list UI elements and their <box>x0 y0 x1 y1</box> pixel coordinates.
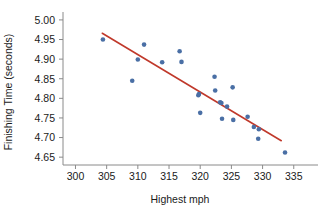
y-tick-label: 4.80 <box>35 92 56 104</box>
x-axis-title: Highest mph <box>151 193 210 205</box>
y-tick-group: 4.654.704.754.804.854.904.955.00 <box>35 14 63 163</box>
x-tick-label: 335 <box>285 170 303 182</box>
data-point <box>179 60 184 65</box>
data-point <box>283 150 288 155</box>
data-point <box>220 116 225 121</box>
y-tick-label: 5.00 <box>35 14 56 26</box>
data-point <box>212 74 217 79</box>
regression-line-group <box>102 33 281 140</box>
data-point <box>245 114 250 119</box>
regression-line <box>102 33 281 140</box>
data-points-group <box>101 37 288 155</box>
data-point <box>231 118 236 123</box>
y-tick-label: 4.75 <box>35 112 56 124</box>
x-tick-label: 325 <box>223 170 241 182</box>
x-tick-label: 330 <box>254 170 272 182</box>
data-point <box>136 57 141 62</box>
x-tick-label: 310 <box>129 170 147 182</box>
data-point <box>101 37 106 42</box>
data-point <box>219 101 224 106</box>
data-point <box>160 60 165 65</box>
data-point <box>256 136 261 141</box>
data-point <box>177 49 182 54</box>
data-point <box>198 111 203 116</box>
data-point <box>142 42 147 47</box>
y-tick-label: 4.70 <box>35 131 56 143</box>
x-tick-label: 315 <box>160 170 178 182</box>
y-tick-label: 4.65 <box>35 151 56 163</box>
x-tick-label: 305 <box>98 170 116 182</box>
y-tick-label: 4.90 <box>35 53 56 65</box>
y-axis-title: Finishing Time (seconds) <box>2 34 14 151</box>
data-point <box>225 104 230 109</box>
data-point <box>252 125 257 130</box>
data-point <box>257 127 262 132</box>
x-tick-label: 300 <box>67 170 85 182</box>
plot-canvas: 300305310315320325330335 4.654.704.754.8… <box>0 0 330 209</box>
data-point <box>213 88 218 93</box>
data-point <box>197 92 202 97</box>
y-tick-label: 4.85 <box>35 73 56 85</box>
x-tick-group: 300305310315320325330335 <box>67 165 303 182</box>
x-tick-label: 320 <box>191 170 209 182</box>
y-tick-label: 4.95 <box>35 33 56 45</box>
data-point <box>130 78 135 83</box>
data-point <box>230 85 235 90</box>
scatter-plot-figure: 300305310315320325330335 4.654.704.754.8… <box>0 0 330 209</box>
axes-group <box>63 12 318 165</box>
